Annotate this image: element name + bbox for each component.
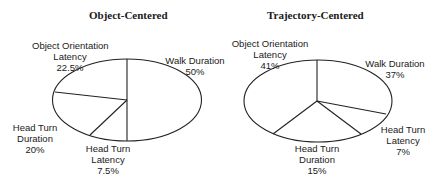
slice-divider: [273, 101, 317, 134]
label-walk-duration: Walk Duration 37%: [362, 58, 428, 80]
label-walk-duration: Walk Duration 50%: [162, 55, 228, 77]
label-head-turn-latency: Head Turn Latency 7.5%: [85, 143, 131, 176]
label-head-turn-duration: Head Turn Duration 20%: [12, 122, 58, 155]
label-object-orientation-latency: Object Orientation Latency 22.5%: [32, 40, 108, 73]
label-head-turn-duration: Head Turn Duration 15%: [294, 143, 340, 176]
slice-divider: [55, 92, 127, 100]
slice-divider: [90, 100, 127, 135]
chart-title-trajectory-centered: Trajectory-Centered: [267, 9, 364, 21]
label-head-turn-latency: Head Turn Latency 7%: [379, 124, 427, 157]
slice-divider: [317, 101, 361, 134]
slice-divider: [317, 101, 386, 114]
pie-charts: [0, 0, 438, 179]
label-object-orientation-latency: Object Orientation Latency 41%: [231, 38, 309, 71]
